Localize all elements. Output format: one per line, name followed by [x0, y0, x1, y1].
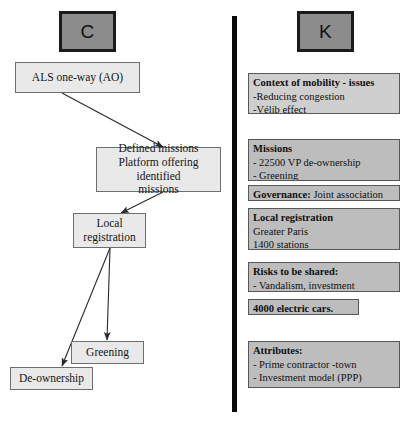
flow-node-defined-missions-line-0: Defined missions: [101, 142, 216, 156]
card-line-context-of-mobility-1: -Vélib effect: [253, 103, 395, 114]
card-header-governance: Governance:: [253, 189, 311, 200]
flow-node-de-ownership[interactable]: De-ownership: [10, 367, 93, 390]
flow-node-defined-missions-line-2: missions: [101, 183, 216, 197]
card-header-attributes: Attributes:: [253, 344, 395, 358]
card-value-governance: Joint association: [313, 189, 383, 200]
card-header-context-of-mobility: Context of mobility - issues: [253, 76, 395, 90]
column-divider: [232, 16, 237, 412]
card-line-local-registration-0: Greater Paris: [253, 225, 395, 239]
knowledge-card-risks-to-be-shared[interactable]: Risks to be shared: - Vandalism, investm…: [248, 262, 400, 292]
knowledge-card-governance[interactable]: Governance: Joint association: [248, 185, 400, 201]
flow-node-local-registration[interactable]: Local registration: [73, 213, 146, 248]
card-line-missions-1: - Greening: [253, 169, 395, 181]
flow-node-defined-missions[interactable]: Defined missions Platform offering ident…: [96, 147, 221, 192]
card-line-attributes-1: - Investment model (PPP): [253, 371, 395, 385]
column-header-chip-k: K: [297, 11, 354, 52]
flow-node-greening[interactable]: Greening: [71, 341, 144, 364]
flow-node-defined-missions-line-1: Platform offering identified: [101, 156, 216, 183]
column-header-label-k: K: [319, 21, 332, 43]
arrow-als-to-defined-missions: [62, 93, 163, 147]
knowledge-card-attributes[interactable]: Attributes: - Prime contractor -town - I…: [248, 341, 400, 388]
flow-node-local-registration-line-1: registration: [78, 231, 141, 245]
card-line-local-registration-1: 1400 stations: [253, 238, 395, 250]
card-line-risks-to-be-shared-0: - Vandalism, investment: [253, 279, 395, 292]
card-line-context-of-mobility-0: -Reducing congestion: [253, 90, 395, 104]
card-header-electric-cars: 4000 electric cars.: [253, 302, 354, 315]
card-header-risks-to-be-shared: Risks to be shared:: [253, 265, 395, 279]
flow-node-de-ownership-line-0: De-ownership: [15, 372, 88, 386]
card-line-attributes-0: - Prime contractor -town: [253, 358, 395, 372]
flow-node-greening-line-0: Greening: [76, 346, 139, 360]
knowledge-card-local-registration[interactable]: Local registration Greater Paris 1400 st…: [248, 208, 400, 250]
flow-node-local-registration-line-0: Local: [78, 217, 141, 231]
knowledge-card-electric-cars[interactable]: 4000 electric cars.: [248, 299, 359, 315]
arrow-local-registration-to-greening: [107, 248, 110, 340]
knowledge-card-missions[interactable]: Missions - 22500 VP de-ownership - Green…: [248, 139, 400, 181]
diagram-canvas: C K ALS one-way (AO) Defined missions Pl…: [0, 0, 405, 442]
column-header-label-c: C: [80, 21, 94, 43]
flow-node-als-line-0: ALS one-way (AO): [20, 71, 135, 85]
column-header-chip-c: C: [59, 11, 116, 52]
card-header-local-registration: Local registration: [253, 211, 395, 225]
knowledge-card-context-of-mobility[interactable]: Context of mobility - issues -Reducing c…: [248, 73, 400, 114]
flow-node-als[interactable]: ALS one-way (AO): [15, 62, 140, 93]
card-header-missions: Missions: [253, 142, 395, 156]
card-line-missions-0: - 22500 VP de-ownership: [253, 156, 395, 170]
